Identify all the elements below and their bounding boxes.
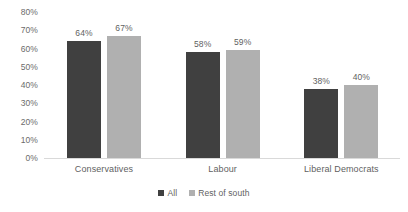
x-axis-categories: ConservativesLabourLiberal Democrats: [44, 164, 400, 184]
y-axis-tick-label: 0%: [26, 153, 39, 163]
y-axis: 0%10%20%30%40%50%60%70%80%: [0, 0, 44, 170]
plot-area: 64%67%58%59%38%40%: [44, 12, 400, 158]
y-axis-tick-label: 20%: [21, 117, 38, 127]
bar-group: 38%40%: [281, 12, 400, 158]
chart-legend: AllRest of south: [0, 188, 408, 198]
legend-item[interactable]: Rest of south: [189, 188, 249, 198]
bar: [67, 41, 101, 158]
bar: [226, 50, 260, 158]
bar-value-label: 67%: [107, 23, 141, 33]
bar-value-label: 38%: [304, 76, 338, 86]
bar-group: 64%67%: [44, 12, 163, 158]
y-axis-tick-label: 40%: [21, 80, 38, 90]
bar-chart: 0%10%20%30%40%50%60%70%80% 64%67%58%59%3…: [0, 0, 408, 212]
bar: [107, 36, 141, 158]
y-axis-tick-label: 80%: [21, 7, 38, 17]
legend-swatch-icon: [158, 190, 164, 196]
bar-group: 58%59%: [163, 12, 282, 158]
x-axis-category-label: Liberal Democrats: [304, 164, 379, 174]
legend-swatch-icon: [189, 190, 195, 196]
bar-value-label: 58%: [186, 39, 220, 49]
x-axis-line: [44, 158, 400, 159]
x-axis-category-label: Conservatives: [75, 164, 133, 174]
bar-value-label: 40%: [344, 72, 378, 82]
y-axis-tick-label: 10%: [21, 135, 38, 145]
x-axis-category-label: Labour: [208, 164, 237, 174]
legend-label: Rest of south: [198, 188, 249, 198]
y-axis-tick-label: 50%: [21, 62, 38, 72]
y-axis-tick-label: 30%: [21, 98, 38, 108]
legend-item[interactable]: All: [158, 188, 177, 198]
bar-value-label: 59%: [226, 37, 260, 47]
bar-value-label: 64%: [67, 28, 101, 38]
y-axis-tick-label: 60%: [21, 44, 38, 54]
legend-label: All: [167, 188, 177, 198]
y-axis-tick-label: 70%: [21, 25, 38, 35]
bar: [304, 89, 338, 158]
bar: [344, 85, 378, 158]
bar: [186, 52, 220, 158]
